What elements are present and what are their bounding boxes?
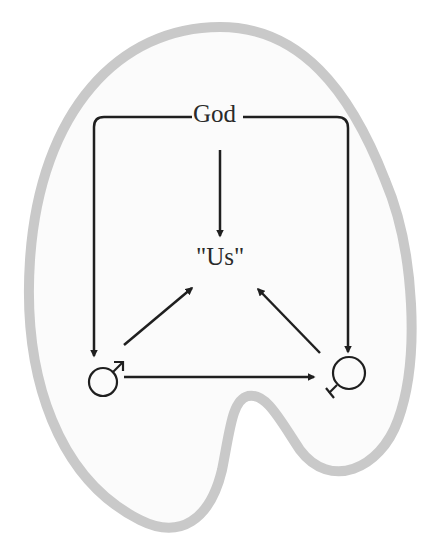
us-label: "Us": [196, 244, 244, 269]
diagram-canvas: [0, 0, 436, 555]
god-label: God: [193, 101, 236, 126]
